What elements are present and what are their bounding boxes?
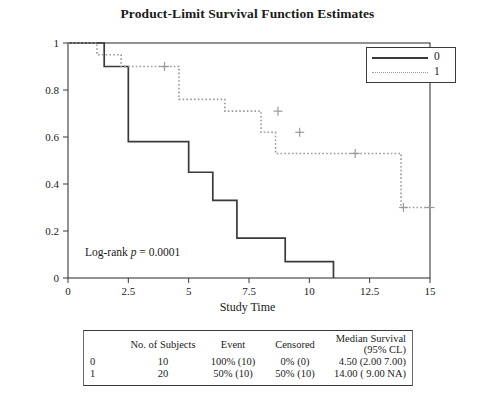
cell-group-0: 0 [84, 356, 124, 368]
y-tick-label: 0.8 [45, 84, 59, 96]
survival-chart: Product-Limit Survival Function Estimate… [0, 0, 495, 415]
cell-median-0: 4.50 (2.00 7.00) [326, 356, 412, 368]
y-tick-label: 0.4 [45, 178, 59, 190]
censor-mark [426, 203, 435, 212]
x-tick-label: 15 [425, 285, 437, 297]
header-event: Event [202, 331, 264, 356]
y-tick-label: 0.2 [45, 225, 59, 237]
cell-censored-1: 50% (10) [264, 368, 326, 380]
x-tick-label: 12.5 [360, 285, 380, 297]
legend-entry-1: 1 [372, 66, 452, 80]
legend-label-1: 1 [434, 65, 440, 77]
y-tick-label: 0 [54, 272, 60, 284]
legend-label-0: 0 [434, 50, 440, 62]
cell-event-0: 100% (10) [202, 356, 264, 368]
legend-entry-0: 0 [372, 51, 452, 65]
table-row: 0 10 100% (10) 0% (0) 4.50 (2.00 7.00) [84, 356, 412, 368]
cell-subjects-0: 10 [124, 356, 202, 368]
x-tick-label: 7.5 [242, 285, 256, 297]
risk-summary-table: No. of Subjects Event Censored Median Su… [84, 331, 412, 380]
x-tick-label: 5 [186, 285, 192, 297]
censor-mark [295, 128, 304, 137]
censor-mark [160, 62, 169, 71]
x-tick-label: 0 [65, 285, 71, 297]
table-row: 1 20 50% (10) 50% (10) 14.00 ( 9.00 NA) [84, 368, 412, 380]
table-header-row: No. of Subjects Event Censored Median Su… [84, 331, 412, 356]
x-tick-label: 2.5 [121, 285, 135, 297]
censor-mark [351, 149, 360, 158]
y-tick-label: 0.6 [45, 131, 59, 143]
header-censored: Censored [264, 331, 326, 356]
legend-key-dotted [372, 72, 428, 73]
censor-mark [273, 107, 282, 116]
cell-censored-0: 0% (0) [264, 356, 326, 368]
y-tick-label: 1 [54, 37, 60, 49]
cell-event-1: 50% (10) [202, 368, 264, 380]
cell-subjects-1: 20 [124, 368, 202, 380]
header-subjects: No. of Subjects [124, 331, 202, 356]
legend-key-solid [372, 57, 428, 59]
x-tick-label: 10 [304, 285, 316, 297]
summary-table: No. of Subjects Event Censored Median Su… [83, 330, 413, 386]
cell-median-1: 14.00 ( 9.00 NA) [326, 368, 412, 380]
header-group [84, 331, 124, 356]
legend: 0 1 [366, 47, 456, 83]
series-line-0 [68, 43, 333, 278]
cell-group-1: 1 [84, 368, 124, 380]
header-median: Median Survival (95% CL) [326, 331, 412, 356]
